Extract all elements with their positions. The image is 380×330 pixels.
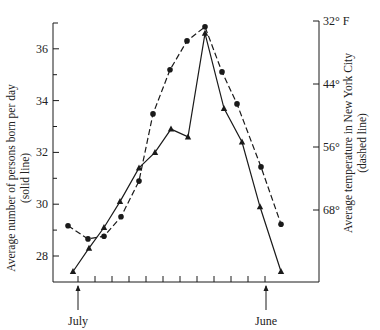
left-axis-ticks: 2830323436	[36, 42, 59, 263]
left-tick-label: 28	[36, 249, 48, 263]
triangle-marker-icon	[117, 198, 123, 204]
temperature-series-dashed	[65, 24, 284, 242]
left-axis-title: Average number of persons born per day	[5, 84, 18, 272]
temperature-line	[68, 27, 281, 239]
left-axis-subtitle: (solid line)	[19, 153, 32, 203]
triangle-marker-icon	[239, 139, 245, 145]
right-tick-label: 56°	[323, 140, 340, 154]
triangle-marker-icon	[257, 203, 263, 209]
june-marker: June	[255, 285, 277, 328]
circle-marker-icon	[85, 236, 91, 242]
circle-marker-icon	[167, 67, 173, 73]
right-tick-label: 44°	[323, 77, 340, 91]
left-tick-label: 30	[36, 197, 48, 211]
right-tick-label: 32° F	[323, 14, 350, 28]
circle-marker-icon	[150, 111, 156, 117]
right-tick-label: 68°	[323, 203, 340, 217]
birth-temperature-chart: 2830323436 32° F44°56°68° Average number…	[0, 0, 380, 330]
circle-marker-icon	[278, 221, 284, 227]
circle-marker-icon	[219, 69, 225, 75]
left-tick-label: 36	[36, 42, 48, 56]
circle-marker-icon	[202, 24, 208, 30]
july-marker: July	[68, 285, 88, 328]
left-tick-label: 32	[36, 145, 48, 159]
triangle-marker-icon	[278, 268, 284, 274]
right-axis-title: Average temperature in New York City	[342, 53, 355, 233]
left-tick-label: 34	[36, 94, 48, 108]
circle-marker-icon	[101, 234, 107, 240]
circle-marker-icon	[184, 38, 190, 44]
circle-marker-icon	[258, 164, 264, 170]
june-label: June	[255, 314, 277, 328]
triangle-marker-icon	[221, 105, 227, 111]
circle-marker-icon	[65, 223, 71, 229]
circle-marker-icon	[234, 101, 240, 107]
july-label: July	[68, 314, 88, 328]
arrow-up-icon	[264, 285, 269, 291]
triangle-marker-icon	[168, 126, 174, 132]
right-axis-subtitle: (dashed line)	[356, 113, 369, 173]
circle-marker-icon	[136, 178, 142, 184]
arrow-up-icon	[76, 285, 81, 291]
circle-marker-icon	[118, 214, 124, 220]
x-axis-ticks	[78, 276, 265, 282]
